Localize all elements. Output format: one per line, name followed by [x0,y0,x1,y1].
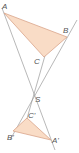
label-a-prime: A' [51,136,59,145]
label-b: B [63,26,69,35]
label-s: S [35,95,41,104]
label-a: A [1,2,7,11]
triangle-abc [4,13,67,57]
triangle-a-b-c-prime [13,118,51,140]
label-b-prime: B' [7,133,14,142]
geometry-diagram: A B C S C' B' A' [0,0,79,153]
label-c: C [34,57,40,66]
label-c-prime: C' [28,111,36,120]
